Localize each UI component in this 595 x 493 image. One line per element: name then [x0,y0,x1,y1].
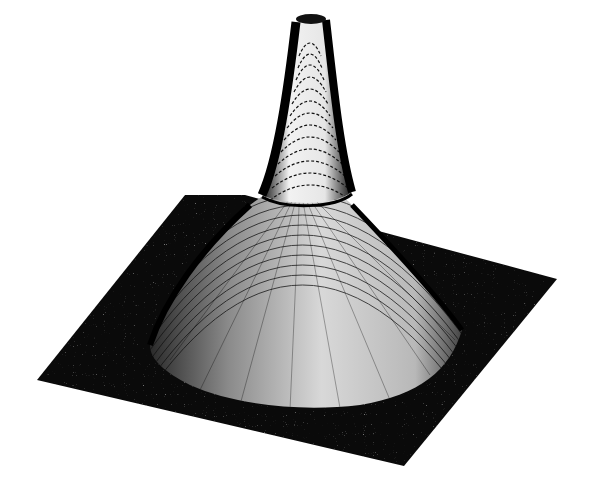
surface-plot-svg [0,0,595,493]
surface-plot [0,0,595,493]
narrow-peak [262,14,352,206]
